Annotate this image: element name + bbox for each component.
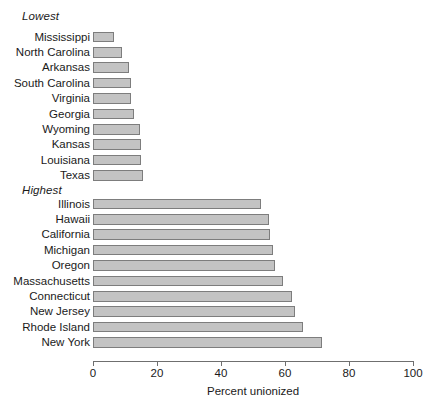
- x-axis-tick-label: 80: [343, 367, 356, 379]
- bar-label: Hawaii: [55, 212, 90, 227]
- bar-row: North Carolina: [0, 45, 428, 60]
- bar-row: Hawaii: [0, 212, 428, 227]
- bar-label: Louisiana: [41, 153, 90, 168]
- bar-label: Kansas: [52, 137, 90, 152]
- x-axis-title: Percent unionized: [0, 385, 428, 397]
- x-axis-tick-label: 60: [279, 367, 292, 379]
- bar-row: Illinois: [0, 197, 428, 212]
- bar-label: North Carolina: [16, 45, 90, 60]
- x-axis-tick-label: 100: [403, 367, 422, 379]
- bar: [93, 32, 114, 43]
- bar-row: Kansas: [0, 137, 428, 152]
- x-axis-tick: [93, 361, 94, 366]
- bar: [93, 78, 131, 89]
- bar-label: Virginia: [52, 91, 90, 106]
- x-axis-tick: [413, 361, 414, 366]
- bar-label: Mississippi: [34, 30, 90, 45]
- x-axis-line: [93, 361, 413, 362]
- bar-row: California: [0, 227, 428, 242]
- bar: [93, 199, 261, 210]
- bar-row: Massachusetts: [0, 274, 428, 289]
- bar-label: Connecticut: [29, 289, 90, 304]
- bar: [93, 139, 141, 150]
- bar-row: Texas: [0, 168, 428, 183]
- bar-label: New York: [41, 335, 90, 350]
- bar-label: Texas: [60, 168, 90, 183]
- bar-row: Connecticut: [0, 289, 428, 304]
- bar: [93, 214, 269, 225]
- bar: [93, 306, 295, 317]
- bar: [93, 260, 275, 271]
- x-axis-tick: [221, 361, 222, 366]
- bar: [93, 276, 283, 287]
- bar-label: New Jersey: [30, 304, 90, 319]
- x-axis: 020406080100 Percent unionized: [0, 361, 428, 405]
- bar-label: Arkansas: [42, 60, 90, 75]
- bar: [93, 170, 143, 181]
- bar: [93, 291, 292, 302]
- bar-label: Georgia: [49, 107, 90, 122]
- bar-label: Wyoming: [42, 122, 90, 137]
- bar-row: Arkansas: [0, 60, 428, 75]
- bar-row: Mississippi: [0, 30, 428, 45]
- bar-row: Georgia: [0, 107, 428, 122]
- bar: [93, 124, 140, 135]
- x-axis-tick: [285, 361, 286, 366]
- bar-label: Oregon: [52, 258, 90, 273]
- x-axis-tick-label: 0: [90, 367, 96, 379]
- bar-label: Massachusetts: [13, 274, 90, 289]
- bar: [93, 229, 270, 240]
- bar: [93, 322, 303, 333]
- bar-row: Wyoming: [0, 122, 428, 137]
- bar-row: Oregon: [0, 258, 428, 273]
- bar-label: Illinois: [58, 197, 90, 212]
- bar: [93, 47, 122, 58]
- bar: [93, 245, 273, 256]
- bar-row: New Jersey: [0, 304, 428, 319]
- x-axis-tick-label: 40: [215, 367, 228, 379]
- bar-chart: Lowest Highest MississippiNorth Carolina…: [0, 0, 428, 405]
- bar-label: South Carolina: [14, 76, 90, 91]
- bar: [93, 109, 134, 120]
- bar: [93, 93, 131, 104]
- bar-label: California: [41, 227, 90, 242]
- bar-row: South Carolina: [0, 76, 428, 91]
- bar-row: Louisiana: [0, 153, 428, 168]
- bar-label: Rhode Island: [22, 320, 90, 335]
- x-axis-tick: [157, 361, 158, 366]
- group-header-highest: Highest: [22, 184, 62, 196]
- bar-row: Rhode Island: [0, 320, 428, 335]
- bar: [93, 337, 322, 348]
- group-header-lowest: Lowest: [22, 10, 59, 22]
- bar-row: New York: [0, 335, 428, 350]
- bar-label: Michigan: [44, 243, 90, 258]
- x-axis-title-text: Percent unionized: [207, 385, 299, 397]
- bar-row: Michigan: [0, 243, 428, 258]
- x-axis-tick: [349, 361, 350, 366]
- bar: [93, 62, 129, 73]
- bar: [93, 155, 141, 166]
- bar-row: Virginia: [0, 91, 428, 106]
- x-axis-tick-label: 20: [151, 367, 164, 379]
